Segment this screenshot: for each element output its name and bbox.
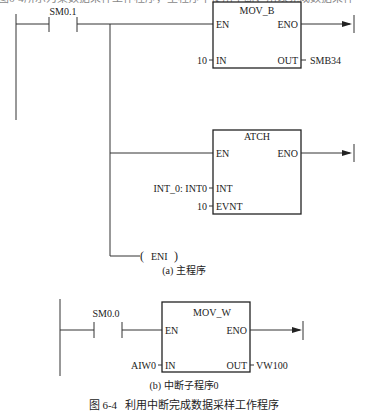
out-value: VW100 <box>256 360 288 371</box>
main-program: SM0.1 MOV_B EN ENO IN OUT 10 SMB34 ATCH … <box>16 2 354 277</box>
pin-en: EN <box>165 325 178 336</box>
pin-out: OUT <box>277 55 298 66</box>
block-title: MOV_B <box>239 5 274 16</box>
contact-sm0-1: SM0.1 <box>49 6 77 32</box>
ladder-diagram-figure: 图6-4所示为某数据采样工作程序，主程序中使用中断，用以完成数据采样 SM0.1… <box>0 0 368 414</box>
arrow-icon <box>342 150 352 156</box>
eni-coil: ( ENI ) <box>110 249 178 263</box>
pin-en: EN <box>216 148 229 159</box>
pin-evnt: EVNT <box>216 201 243 212</box>
pin-en: EN <box>216 19 229 30</box>
svg-text:(: ( <box>140 249 144 263</box>
arrow-icon <box>342 21 352 27</box>
interrupt-routine: SM0.0 MOV_W EN ENO IN OUT AIW0 VW100 (b)… <box>60 299 303 392</box>
svg-text:): ) <box>174 249 178 263</box>
pin-int: INT <box>216 183 233 194</box>
in-value: AIW0 <box>131 360 156 371</box>
atch-block: ATCH EN ENO INT EVNT INT_0: INT0 10 <box>153 130 354 214</box>
block-title: MOV_W <box>193 307 231 318</box>
mov-w-block: MOV_W EN ENO IN OUT AIW0 VW100 <box>131 302 303 372</box>
pin-eno: ENO <box>277 19 298 30</box>
caption-main-program: (a) 主程序 <box>162 264 206 277</box>
evnt-value: 10 <box>197 201 207 212</box>
pin-out: OUT <box>226 360 247 371</box>
pin-eno: ENO <box>277 148 298 159</box>
in-value: 10 <box>197 55 207 66</box>
out-value: SMB34 <box>310 55 341 66</box>
arrow-icon <box>292 327 302 333</box>
figure-caption: 图 6-4 利用中断完成数据采样工作程序 <box>89 398 280 411</box>
contact-label: SM0.1 <box>50 6 77 17</box>
pin-in: IN <box>165 360 176 371</box>
mov-b-block: MOV_B EN ENO IN OUT 10 SMB34 <box>197 2 354 68</box>
block-title: ATCH <box>244 131 270 142</box>
int-value: INT_0: INT0 <box>153 183 207 194</box>
pin-in: IN <box>216 55 227 66</box>
pin-eno: ENO <box>226 325 247 336</box>
contact-sm0-0: SM0.0 <box>93 308 122 338</box>
caption-interrupt-routine: (b) 中断子程序0 <box>149 379 218 392</box>
contact-label: SM0.0 <box>93 308 120 319</box>
coil-label: ENI <box>151 251 168 262</box>
